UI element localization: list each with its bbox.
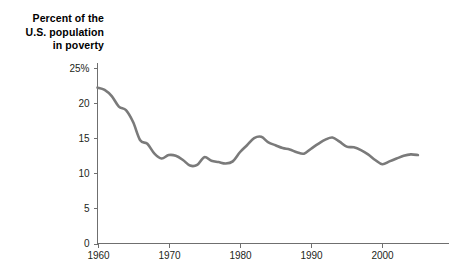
poverty-rate-series-line [98,88,418,166]
x-tick-label: 1960 [87,250,110,261]
y-tick-label: 20 [78,98,90,109]
y-tick-label: 5 [84,203,90,214]
x-tick-label: 1990 [300,250,323,261]
x-axis: 19601970198019902000 [87,244,449,261]
y-tick-label: 0 [84,238,90,249]
y-tick-group: 25%20151050 [69,63,97,250]
y-tick-label: 15 [78,133,90,144]
x-tick-label: 1980 [229,250,252,261]
poverty-rate-chart: Percent of the U.S. population in povert… [0,0,457,268]
x-tick-label: 1970 [158,250,181,261]
x-tick-group: 19601970198019902000 [87,244,394,261]
y-tick-label: 25% [69,63,89,74]
chart-plot-area: 25%20151050 19601970198019902000 [0,0,457,268]
y-axis: 25%20151050 [69,63,97,250]
y-tick-label: 10 [78,168,90,179]
x-tick-label: 2000 [371,250,394,261]
